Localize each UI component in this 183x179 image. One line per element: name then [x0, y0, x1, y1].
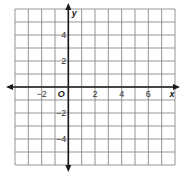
axes [6, 3, 180, 172]
tick-labels: −224642−2−4Oxy [37, 8, 176, 144]
coordinate-plane: −224642−2−4Oxy [0, 0, 183, 179]
origin-label: O [58, 89, 65, 99]
y-axis-up-arrow-icon [65, 3, 71, 10]
x-tick-label: −2 [37, 89, 47, 99]
y-axis-down-arrow-icon [65, 165, 71, 172]
x-axis-label: x [168, 89, 175, 99]
y-tick-label: 4 [61, 30, 66, 40]
x-axis-left-arrow-icon [6, 84, 13, 90]
y-tick-label: −2 [56, 108, 66, 118]
y-axis-label: y [71, 8, 78, 18]
y-tick-label: 2 [61, 56, 66, 66]
y-tick-label: −4 [56, 134, 66, 144]
x-tick-label: 2 [92, 89, 97, 99]
x-tick-label: 6 [146, 89, 151, 99]
x-tick-label: 4 [119, 89, 124, 99]
